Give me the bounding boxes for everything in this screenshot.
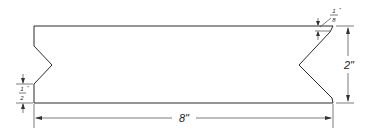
arrow-up-icon — [346, 27, 350, 34]
notch-offset-dimension: 1 2 " — [16, 74, 33, 113]
technical-drawing: 8" 2" 1 2 " 1 8 — [0, 0, 373, 132]
height-dimension: 2" — [336, 26, 355, 103]
notch-offset-fraction: 1 2 " — [19, 85, 29, 101]
svg-text:1: 1 — [20, 86, 23, 92]
arrow-up-icon — [316, 31, 320, 36]
arrow-right-icon — [325, 116, 332, 120]
chamfer-fraction: 1 8 " — [330, 7, 341, 23]
arrow-down-icon — [21, 78, 25, 84]
length-dimension: 8" — [34, 104, 333, 128]
height-label: 2" — [343, 59, 355, 71]
svg-text:": " — [339, 7, 341, 13]
arrow-down-icon — [316, 21, 320, 26]
svg-text:": " — [27, 85, 29, 91]
arrow-left-icon — [35, 116, 42, 120]
arrow-down-icon — [346, 95, 350, 102]
chamfer-dimension: 1 8 " — [315, 7, 341, 40]
plate-outline — [34, 26, 333, 103]
svg-text:8: 8 — [332, 17, 336, 23]
arrow-up-icon — [21, 103, 25, 109]
svg-text:1: 1 — [332, 8, 335, 14]
svg-text:2: 2 — [19, 95, 24, 101]
length-label: 8" — [179, 112, 190, 124]
